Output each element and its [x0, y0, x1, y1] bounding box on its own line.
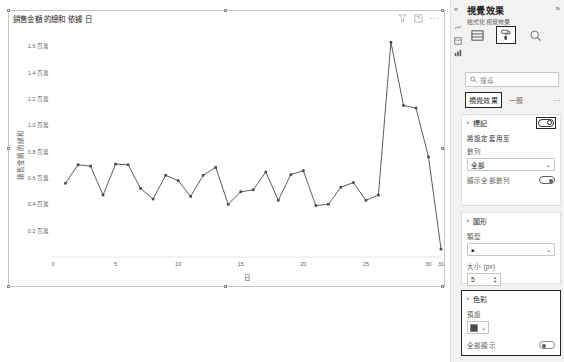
filter-icon[interactable] — [398, 13, 408, 23]
data-point-marker[interactable] — [64, 182, 67, 185]
markers-toggle-focus[interactable] — [536, 117, 556, 129]
focus-mode-icon[interactable] — [414, 13, 424, 23]
x-axis-title: 日 — [244, 274, 251, 282]
data-point-marker[interactable] — [427, 156, 430, 159]
visualizations-pane: « 視覺效果 » 格式化視覺效果 — [450, 0, 564, 362]
y-axis-title: 銷售金額 的總和 — [16, 130, 25, 181]
search-icon — [470, 76, 477, 83]
pane-title: 視覺效果 — [467, 4, 505, 17]
chevron-double-right-icon[interactable]: » — [556, 4, 560, 13]
data-point-marker[interactable] — [365, 199, 368, 202]
fields-icon[interactable] — [454, 36, 463, 45]
x-axis-tick-labels: 05101520253031 — [51, 261, 444, 267]
data-point-marker[interactable] — [102, 194, 105, 197]
chevron-down-icon: ⌄ — [481, 324, 486, 331]
color-card-title: 色彩 — [473, 294, 487, 304]
data-point-marker[interactable] — [177, 179, 180, 182]
data-point-marker[interactable] — [164, 174, 167, 177]
data-point-marker[interactable] — [127, 163, 130, 166]
power-bi-report-view: 銷售金額 的總和 依據 日 ··· 銷售金額 的總和 1.6 百萬1.4 百萬1… — [0, 0, 564, 362]
tab-general[interactable]: 一般 — [505, 93, 527, 107]
resize-handle-s[interactable] — [224, 285, 227, 288]
search-input[interactable]: 搜尋 — [465, 72, 559, 87]
data-point-marker[interactable] — [152, 198, 155, 201]
chevron-double-left-icon[interactable]: « — [454, 6, 458, 13]
y-tick-label: 1.4 百萬 — [28, 69, 49, 77]
resize-handle-e[interactable] — [441, 147, 444, 150]
resize-handle-sw[interactable] — [7, 285, 10, 288]
resize-handle-ne[interactable] — [441, 9, 444, 12]
data-point-marker[interactable] — [302, 169, 305, 172]
data-point-marker[interactable] — [139, 187, 142, 190]
build-visual-icon[interactable] — [454, 24, 463, 33]
show-all-series-toggle[interactable] — [539, 176, 555, 184]
resize-handle-w[interactable] — [7, 147, 10, 150]
markers-card-title: 標記 — [473, 118, 487, 128]
shape-type-dropdown[interactable]: ■ ⌄ — [467, 243, 555, 256]
chevron-down-icon[interactable]: ˅ — [466, 218, 470, 224]
data-point-marker[interactable] — [239, 190, 242, 193]
y-axis-tick-labels: 1.6 百萬1.4 百萬1.2 百萬1.0 百萬0.8 百萬0.6 百萬0.4 … — [28, 42, 49, 234]
magnifier-icon[interactable] — [525, 26, 545, 44]
paint-roller-icon[interactable] — [496, 26, 516, 44]
data-point-marker[interactable] — [352, 181, 355, 184]
y-tick-label: 1.2 百萬 — [28, 95, 49, 103]
chart-plot-area: 銷售金額 的總和 1.6 百萬1.4 百萬1.2 百萬1.0 百萬0.8 百萬0… — [9, 25, 444, 286]
x-tick-label: 25 — [363, 261, 369, 267]
data-point-marker[interactable] — [227, 203, 230, 206]
data-point-marker[interactable] — [290, 173, 293, 176]
series-markers[interactable] — [64, 41, 442, 250]
color-card-header[interactable]: ˅ 色彩 — [462, 291, 560, 306]
data-point-marker[interactable] — [189, 195, 192, 198]
series-line[interactable] — [66, 42, 442, 249]
data-point-marker[interactable] — [440, 248, 443, 251]
data-point-marker[interactable] — [277, 199, 280, 202]
series-dropdown[interactable]: 全部 ⌄ — [467, 158, 555, 171]
visual-title: 銷售金額 的總和 依據 日 — [13, 13, 92, 24]
resize-handle-n[interactable] — [224, 9, 227, 12]
data-point-marker[interactable] — [340, 186, 343, 189]
markers-toggle[interactable] — [538, 119, 554, 127]
data-point-marker[interactable] — [77, 163, 80, 166]
format-tab-row — [467, 26, 545, 44]
default-color-picker[interactable]: ⌄ — [467, 321, 489, 334]
data-point-marker[interactable] — [327, 203, 330, 206]
data-point-marker[interactable] — [214, 166, 217, 169]
chevron-down-icon: ⌄ — [546, 246, 551, 253]
resize-handle-se[interactable] — [441, 285, 444, 288]
data-point-marker[interactable] — [377, 194, 380, 197]
markers-card-header[interactable]: ˅ 標記 — [462, 115, 560, 130]
data-point-marker[interactable] — [202, 174, 205, 177]
stepper-arrows-icon[interactable]: ▲▼ — [493, 276, 497, 284]
data-point-marker[interactable] — [114, 163, 117, 166]
data-point-marker[interactable] — [252, 189, 255, 192]
data-point-marker[interactable] — [415, 107, 418, 110]
x-tick-label: 0 — [51, 261, 54, 267]
y-tick-label: 1.6 百萬 — [28, 42, 49, 50]
show-all-colors-toggle[interactable] — [539, 341, 555, 349]
visual-more-options-button[interactable]: ··· — [430, 15, 441, 21]
data-point-marker[interactable] — [315, 204, 318, 207]
chevron-down-icon[interactable]: ˅ — [466, 120, 470, 126]
data-point-marker[interactable] — [264, 171, 267, 174]
data-point-marker[interactable] — [402, 104, 405, 107]
resize-handle-nw[interactable] — [7, 9, 10, 12]
x-tick-label: 30 — [425, 261, 431, 267]
analytics-icon[interactable] — [454, 48, 463, 57]
shape-card: ˅ 圖形 類型 ■ ⌄ 大小 (px) 5 ▲▼ — [461, 212, 561, 284]
pane-subtitle: 格式化視覺效果 — [467, 17, 510, 26]
y-tick-label: 0.2 百萬 — [28, 227, 49, 235]
table-icon[interactable] — [467, 26, 487, 44]
tab-visual[interactable]: 視覺效果 — [465, 92, 502, 108]
data-point-marker[interactable] — [390, 41, 393, 44]
shape-card-title: 圖形 — [473, 216, 487, 226]
shape-size-stepper[interactable]: 5 ▲▼ — [467, 273, 501, 286]
x-tick-label: 5 — [114, 261, 117, 267]
format-pivot-tabs: 視覺效果 一般 ··· — [465, 92, 561, 108]
line-chart-visual[interactable]: 銷售金額 的總和 依據 日 ··· 銷售金額 的總和 1.6 百萬1.4 百萬1… — [8, 10, 445, 287]
shape-card-header[interactable]: ˅ 圖形 — [462, 213, 560, 228]
chevron-down-icon[interactable]: ˅ — [466, 296, 470, 302]
pivot-more-button[interactable]: ··· — [553, 98, 561, 103]
report-canvas: 銷售金額 的總和 依據 日 ··· 銷售金額 的總和 1.6 百萬1.4 百萬1… — [0, 0, 450, 362]
data-point-marker[interactable] — [89, 165, 92, 168]
